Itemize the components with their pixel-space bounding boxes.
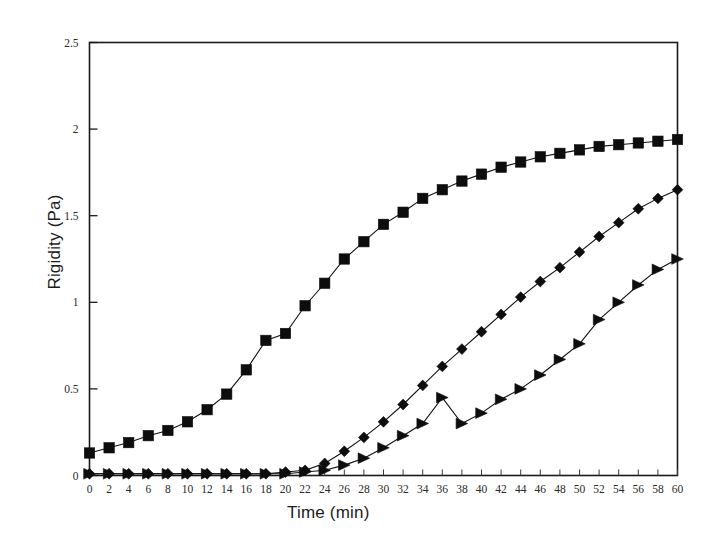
series-squares-marker [594,141,604,151]
series-triangles-marker [437,392,449,403]
x-tick-label-48: 48 [554,483,566,495]
x-axis-tick-labels: 0246810121416182022242628303234363840424… [87,483,684,495]
x-tick-label-12: 12 [201,483,213,495]
x-tick-label-24: 24 [319,483,331,495]
series-squares-marker [143,430,153,440]
series-triangles-marker [417,418,429,429]
series-squares-marker [496,162,506,172]
series-squares-marker [476,169,486,179]
y-tick-label-2.5: 2.5 [64,37,79,49]
y-tick-label-0.5: 0.5 [64,383,79,395]
x-tick-label-40: 40 [476,483,488,495]
x-tick-label-14: 14 [221,483,233,495]
y-axis-tick-labels: 00.511.522.5 [64,37,79,482]
y-tick-label-1.5: 1.5 [64,210,79,222]
series-squares-marker [104,443,114,453]
x-tick-label-28: 28 [358,483,370,495]
series-diamonds-marker [653,193,664,204]
series-diamonds-marker [633,203,644,214]
series-squares-marker [672,134,682,144]
x-tick-label-54: 54 [613,483,625,495]
series-squares-marker [339,254,349,264]
x-tick-label-60: 60 [672,483,684,495]
x-tick-label-2: 2 [106,483,112,495]
x-axis-ticks [90,470,678,476]
series-squares-marker [280,328,290,338]
series-diamonds-marker [594,231,605,242]
x-tick-label-4: 4 [126,483,132,495]
x-tick-label-32: 32 [397,483,409,495]
x-tick-label-22: 22 [299,483,311,495]
series-squares-marker [418,193,428,203]
series-squares-marker [653,136,663,146]
series-squares-marker [202,404,212,414]
x-tick-label-36: 36 [437,483,449,495]
series-squares-marker [359,236,369,246]
series-triangles-marker [456,418,468,429]
series-squares-marker [535,152,545,162]
x-tick-label-52: 52 [593,483,605,495]
series-squares-marker [182,417,192,427]
x-tick-label-26: 26 [339,483,351,495]
series-squares [84,134,682,458]
series-squares-marker [163,425,173,435]
x-tick-label-16: 16 [241,483,253,495]
series-triangles-marker [358,453,370,464]
x-tick-label-6: 6 [145,483,151,495]
x-tick-label-38: 38 [456,483,468,495]
series-diamonds-marker [613,217,624,228]
chart-figure: 00.511.522.5 024681012141618202224262830… [0,0,713,538]
x-axis-title: Time (min) [287,503,370,523]
series-squares-marker [300,301,310,311]
series-squares-marker [614,139,624,149]
x-tick-label-0: 0 [87,483,93,495]
series-diamonds-marker [535,276,546,287]
series-squares-marker [437,185,447,195]
x-tick-label-20: 20 [280,483,292,495]
series-diamonds-marker [359,432,370,443]
series-squares-marker [124,437,134,447]
series-squares-marker [574,145,584,155]
series-squares-marker [241,365,251,375]
x-tick-label-8: 8 [165,483,171,495]
x-tick-label-30: 30 [378,483,390,495]
x-tick-label-50: 50 [574,483,586,495]
series-triangles-line [90,259,678,474]
rigidity-time-plot: 00.511.522.5 024681012141618202224262830… [0,0,713,538]
series-triangles [84,254,684,479]
y-axis-title: Rigidity (Pa) [45,162,65,322]
series-diamonds-marker [339,446,350,457]
series-triangles-marker [652,264,664,275]
series-squares-marker [398,207,408,217]
series-triangles-marker [397,430,409,441]
series-triangles-marker [515,384,527,395]
data-series-layer [84,134,684,479]
series-triangles-marker [495,394,507,405]
series-triangles-marker [574,339,586,350]
series-diamonds-marker [672,184,683,195]
series-diamonds-marker [574,247,585,258]
y-tick-label-0: 0 [73,470,79,482]
plot-frame [90,43,678,476]
series-squares-marker [84,448,94,458]
series-squares-marker [222,389,232,399]
series-squares-marker [633,138,643,148]
series-squares-marker [457,176,467,186]
x-tick-label-56: 56 [633,483,645,495]
y-tick-label-2: 2 [73,123,79,135]
series-diamonds-marker [555,262,566,273]
series-triangles-marker [378,442,390,453]
y-tick-label-1: 1 [73,296,79,308]
x-tick-label-34: 34 [417,483,429,495]
series-squares-marker [516,157,526,167]
series-squares-marker [555,148,565,158]
x-tick-label-44: 44 [515,483,527,495]
x-tick-label-18: 18 [260,483,272,495]
series-triangles-marker [476,408,488,419]
series-triangles-marker [339,460,351,471]
x-tick-label-10: 10 [182,483,194,495]
series-squares-line [90,139,678,452]
series-squares-marker [378,219,388,229]
x-tick-label-58: 58 [652,483,664,495]
y-axis-ticks [90,43,98,476]
